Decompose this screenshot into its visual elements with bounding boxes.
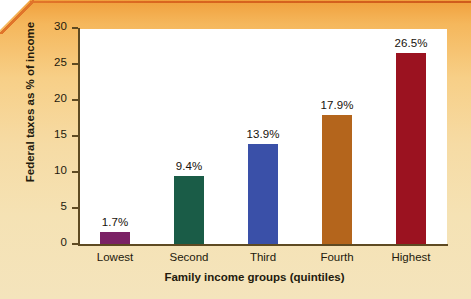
bar-value-label: 9.4% xyxy=(176,160,203,172)
x-axis-tick-label: Highest xyxy=(356,251,466,263)
bar: 26.5% xyxy=(396,53,426,244)
y-axis-tick-label-text: 30 xyxy=(54,20,67,32)
y-axis-tick-label-text: 5 xyxy=(61,200,68,212)
y-axis-tick xyxy=(72,243,78,245)
bar-fill xyxy=(396,53,426,244)
bar-value-label: 17.9% xyxy=(320,99,353,111)
y-axis-tick xyxy=(72,207,78,209)
bar-value-label: 26.5% xyxy=(394,37,427,49)
figure-top-rule xyxy=(30,1,471,3)
y-axis-tick-label-text: 10 xyxy=(54,164,67,176)
y-axis-tick xyxy=(72,135,78,137)
chart-figure: 051015202530 Federal taxes as % of incom… xyxy=(0,0,471,299)
x-axis-title: Family income groups (quintiles) xyxy=(0,271,471,283)
bar-fill xyxy=(174,176,204,244)
x-axis-line xyxy=(78,244,448,246)
bar: 1.7% xyxy=(100,232,130,244)
y-axis-tick-label-text: 20 xyxy=(54,92,67,104)
y-axis-line xyxy=(78,28,80,245)
x-axis-title-text: Family income groups (quintiles) xyxy=(164,271,344,283)
y-axis-tick xyxy=(72,99,78,101)
bar: 13.9% xyxy=(248,144,278,244)
y-axis-tick-label-text: 0 xyxy=(61,236,68,248)
y-axis-tick-label-text: 25 xyxy=(54,56,67,68)
bar-fill xyxy=(322,115,352,244)
bar: 17.9% xyxy=(322,115,352,244)
y-axis-tick-label-text: 15 xyxy=(54,128,67,140)
bar-value-label: 13.9% xyxy=(246,128,279,140)
y-axis-tick xyxy=(72,63,78,65)
bar-fill xyxy=(248,144,278,244)
y-axis-tick xyxy=(72,171,78,173)
bar-fill xyxy=(100,232,130,244)
y-axis-title: Federal taxes as % of income xyxy=(24,2,36,202)
y-axis-tick xyxy=(72,27,78,29)
bar-value-label: 1.7% xyxy=(102,216,129,228)
bar: 9.4% xyxy=(174,176,204,244)
